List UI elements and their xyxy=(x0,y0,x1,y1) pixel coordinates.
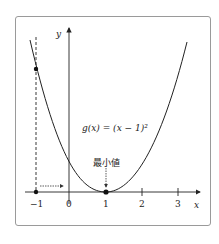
minimum-point xyxy=(103,189,108,194)
point-x-minus-1 xyxy=(34,190,38,194)
x-tick-label: −1 xyxy=(30,199,43,209)
x-tick-label: 2 xyxy=(139,199,145,209)
x-tick-label: 1 xyxy=(103,199,109,209)
function-label: g(x) = (x − 1)² xyxy=(82,123,148,133)
parabola-diagram: y x −1 0 1 2 3 g(x) = (x − 1)² 最小値 xyxy=(0,0,219,244)
minimum-annotation: 最小値 xyxy=(93,157,120,168)
x-tick-label: 0 xyxy=(66,199,72,209)
x-tick-label: 3 xyxy=(175,199,181,209)
y-axis-label: y xyxy=(55,29,62,39)
point-on-curve xyxy=(34,67,38,71)
x-axis-label: x xyxy=(194,200,199,210)
parabola-curve xyxy=(30,40,187,192)
